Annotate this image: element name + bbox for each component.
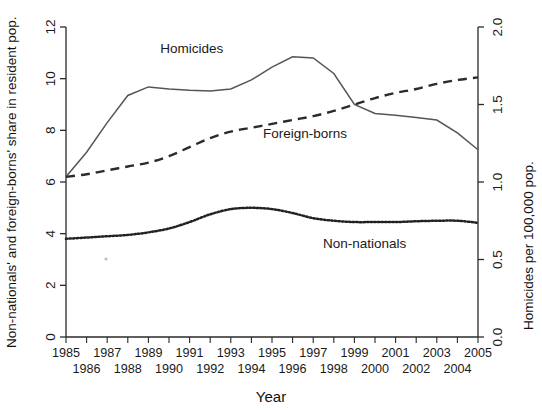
right-axis: 0.00.51.01.52.0 xyxy=(478,18,505,347)
x-tick-label-upper: 1987 xyxy=(93,346,121,360)
x-tick-label-upper: 1997 xyxy=(299,346,327,360)
right-tick-label: 2.0 xyxy=(490,18,505,37)
x-tick-label-upper: 1993 xyxy=(217,346,245,360)
series-label-non-nationals: Non-nationals xyxy=(323,236,407,251)
right-tick-label: 1.5 xyxy=(490,95,505,114)
x-tick-label-upper: 1989 xyxy=(134,346,162,360)
data-curves xyxy=(66,57,478,239)
left-tick-label: 6 xyxy=(43,178,58,186)
x-tick-label-lower: 2000 xyxy=(361,362,389,376)
x-tick-label-lower: 1996 xyxy=(279,362,307,376)
chart-figure: Non-nationals' and foreign-borns' share … xyxy=(0,0,542,410)
x-tick-label-upper: 2003 xyxy=(423,346,451,360)
series-label-foreign-borns: Foreign-borns xyxy=(263,126,347,141)
series-line-non-nationals xyxy=(66,208,478,239)
series-label-homicides: Homicides xyxy=(160,41,223,56)
left-tick-label: 2 xyxy=(43,282,58,290)
left-tick-label: 0 xyxy=(43,333,58,341)
x-tick-label-lower: 2002 xyxy=(402,362,430,376)
left-axis-title: Non-nationals' and foreign-borns' share … xyxy=(4,16,19,348)
x-tick-label-upper: 1985 xyxy=(52,346,80,360)
left-tick-label: 10 xyxy=(43,71,58,86)
series-line-homicides xyxy=(66,57,478,177)
x-tick-label-lower: 1992 xyxy=(196,362,224,376)
right-tick-label: 0.5 xyxy=(490,250,505,269)
right-tick-label: 0.0 xyxy=(490,328,505,347)
x-tick-label-upper: 1995 xyxy=(258,346,286,360)
left-tick-label: 4 xyxy=(43,229,58,237)
x-tick-label-lower: 1998 xyxy=(320,362,348,376)
x-tick-label-upper: 2001 xyxy=(382,346,410,360)
left-tick-label: 8 xyxy=(43,127,58,135)
x-tick-label-lower: 1986 xyxy=(73,362,101,376)
bottom-axis: 1985198719891991199319951997199920012003… xyxy=(52,337,492,376)
left-tick-label: 12 xyxy=(43,19,58,34)
right-axis-title: Homicides per 100,000 pop. xyxy=(521,161,536,330)
x-tick-label-upper: 2005 xyxy=(464,346,492,360)
paper-speck xyxy=(104,257,107,260)
x-tick-label-upper: 1999 xyxy=(340,346,368,360)
x-tick-label-lower: 1990 xyxy=(155,362,183,376)
x-tick-label-lower: 2004 xyxy=(443,362,471,376)
x-tick-label-lower: 1994 xyxy=(237,362,265,376)
x-tick-label-upper: 1991 xyxy=(176,346,204,360)
left-axis: 024681012 xyxy=(43,19,67,340)
x-axis-title: Year xyxy=(256,388,286,405)
line-chart-svg: Non-nationals' and foreign-borns' share … xyxy=(0,0,542,410)
right-tick-label: 1.0 xyxy=(490,173,505,192)
x-tick-label-lower: 1988 xyxy=(114,362,142,376)
